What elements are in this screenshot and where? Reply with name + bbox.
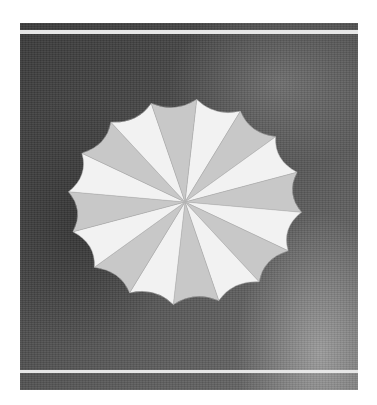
- paper-rosette: [0, 0, 377, 405]
